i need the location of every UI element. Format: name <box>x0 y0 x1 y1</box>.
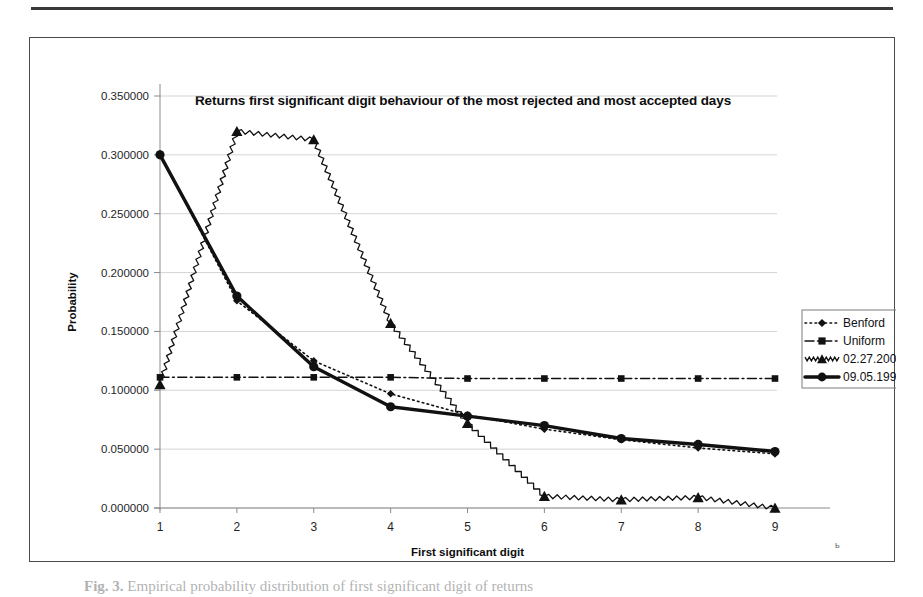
x-tick-label: 8 <box>695 520 702 534</box>
legend-label: 09.05.1995 <box>843 370 896 384</box>
page-top-rule <box>31 7 893 10</box>
x-tick-label: 1 <box>157 520 164 534</box>
y-tick-label: 0.350000 <box>101 90 149 102</box>
data-point-circle <box>232 292 241 301</box>
y-tick-label: 0.100000 <box>101 384 149 396</box>
data-point-circle <box>617 434 626 443</box>
data-point-triangle <box>308 134 319 144</box>
legend-label: Benford <box>843 316 885 330</box>
x-tick-label: 6 <box>541 520 548 534</box>
data-point-circle <box>386 402 395 411</box>
x-tick-label: 7 <box>618 520 625 534</box>
caption-label: Fig. 3. <box>84 578 124 594</box>
data-point-square <box>464 375 471 382</box>
legend-item-benford[interactable]: Benford <box>805 316 885 330</box>
data-point-circle <box>463 412 472 421</box>
data-point-square <box>772 375 779 382</box>
legend-item-09-05-1995[interactable]: 09.05.1995 <box>805 370 896 384</box>
x-tick-label: 2 <box>234 520 241 534</box>
legend-label: 02.27.2007 <box>843 352 896 366</box>
data-point-triangle <box>231 126 242 136</box>
data-point-diamond <box>387 390 395 398</box>
data-point-square <box>310 374 317 381</box>
data-point-square <box>618 375 625 382</box>
data-point-circle <box>818 373 827 382</box>
figure-caption: Fig. 3. Empirical probability distributi… <box>84 578 904 595</box>
series-benford <box>156 150 779 458</box>
data-point-triangle <box>539 491 550 501</box>
y-tick-label: 0.300000 <box>101 149 149 161</box>
data-point-square <box>234 374 241 381</box>
caption-text: Empirical probability distribution of fi… <box>124 578 534 594</box>
series-uniform <box>157 374 779 382</box>
legend-label: Uniform <box>843 334 885 348</box>
y-tick-label: 0.050000 <box>101 443 149 455</box>
x-tick-label: 3 <box>310 520 317 534</box>
series-line <box>159 130 775 509</box>
data-point-square <box>387 374 394 381</box>
data-point-circle <box>309 362 318 371</box>
series-line <box>160 155 775 452</box>
y-tick-label: 0.150000 <box>101 325 149 337</box>
series-line <box>160 154 775 454</box>
x-axis-title: First significant digit <box>411 546 524 558</box>
figure-frame: Returns first significant digit behaviou… <box>29 37 895 562</box>
y-tick-label: 0.000000 <box>101 502 149 514</box>
series-02-27-2007 <box>154 126 780 513</box>
x-tick-label: 9 <box>772 520 779 534</box>
y-tick-label: 0.200000 <box>101 267 149 279</box>
legend-item-uniform[interactable]: Uniform <box>805 334 885 348</box>
x-tick-label: 4 <box>387 520 394 534</box>
data-point-circle <box>155 150 164 159</box>
data-point-square <box>818 337 825 344</box>
data-point-circle <box>694 440 703 449</box>
data-point-triangle <box>616 494 627 504</box>
y-tick-label: 0.250000 <box>101 208 149 220</box>
y-axis-title: Probability <box>66 272 78 332</box>
data-point-triangle <box>693 492 704 502</box>
series-09-05-1995 <box>155 150 779 456</box>
scan-artifact-mark: ь <box>835 540 840 550</box>
data-point-circle <box>540 421 549 430</box>
legend-item-02-27-2007[interactable]: 02.27.2007 <box>805 352 896 366</box>
data-point-circle <box>770 447 779 456</box>
data-point-triangle <box>154 379 165 389</box>
x-tick-label: 5 <box>464 520 471 534</box>
chart-plot-area: 0.0000000.0500000.1000000.1500000.200000… <box>30 38 896 563</box>
line-chart: 0.0000000.0500000.1000000.1500000.200000… <box>30 38 896 563</box>
data-point-diamond <box>818 319 826 327</box>
data-point-square <box>695 375 702 382</box>
data-point-square <box>541 375 548 382</box>
